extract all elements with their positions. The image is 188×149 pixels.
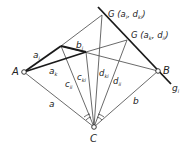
label-a-i: ai: [33, 50, 41, 61]
angle-arc-3: [98, 114, 104, 117]
side-b: [94, 71, 158, 127]
label-a-k: ak: [49, 66, 59, 77]
label-G1: G (ai, dki): [108, 9, 146, 20]
line-p2-g2: [86, 40, 127, 52]
label-side-b: b: [133, 96, 139, 106]
label-A: A: [11, 66, 19, 77]
point-A: [22, 70, 27, 75]
point-B: [156, 69, 161, 74]
segment-a-i: [24, 46, 61, 72]
angle-arc-4: [97, 117, 102, 120]
label-d-ii: dii: [113, 76, 122, 87]
label-G2: G (ak, dii): [131, 30, 169, 41]
label-b-i: bi: [76, 40, 84, 51]
label-g-i: gi: [172, 83, 180, 94]
label-c-ii: cii: [65, 79, 73, 90]
label-side-a: a: [49, 99, 55, 109]
label-c-ki: cki: [77, 72, 87, 83]
point-C: [92, 125, 97, 130]
label-C: C: [90, 133, 97, 144]
label-B: B: [163, 65, 170, 76]
geometry-diagram: G (ai, dki) G (ak, dii) ai ak bi cki cii…: [0, 0, 188, 149]
label-d-ki: dki: [99, 68, 109, 79]
line-c-ki: [86, 52, 94, 127]
